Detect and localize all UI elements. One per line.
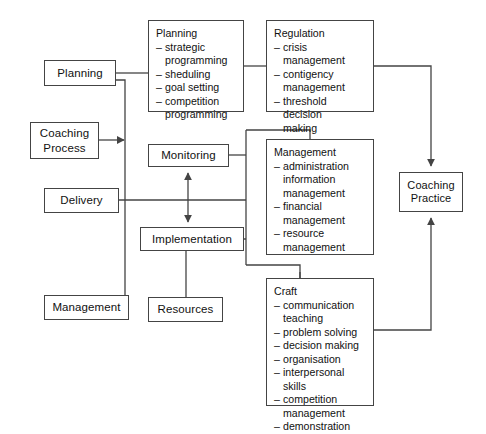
management-heading: Management	[274, 146, 368, 160]
planning-detail-heading: Planning	[156, 27, 238, 41]
list-item: crisis management	[274, 41, 368, 68]
node-coaching-process[interactable]: Coaching Process	[30, 122, 99, 159]
list-item: sheduling	[156, 68, 238, 82]
node-coaching-practice[interactable]: Coaching Practice	[399, 172, 463, 212]
node-monitoring[interactable]: Monitoring	[148, 144, 229, 167]
node-resources[interactable]: Resources	[148, 297, 223, 322]
management-list: administration information managementfin…	[274, 160, 368, 255]
list-item: competition management	[274, 393, 368, 420]
node-craft[interactable]: Craft communication teachingproblem solv…	[266, 278, 374, 406]
list-item: administration information management	[274, 160, 368, 201]
list-item: decision making	[274, 339, 368, 353]
list-item: contigency management	[274, 68, 368, 95]
list-item: organisation	[274, 353, 368, 367]
regulation-list: crisis managementcontigency managementth…	[274, 41, 368, 136]
node-planning-detail[interactable]: Planning strategic programmingshedulingg…	[148, 20, 244, 112]
node-management-left[interactable]: Management	[44, 295, 129, 320]
wire-craft-to-coaching-practice	[374, 218, 431, 330]
node-regulation[interactable]: Regulation crisis managementcontigency m…	[266, 20, 374, 112]
list-item: strategic programming	[156, 41, 238, 68]
list-item: financial management	[274, 200, 368, 227]
list-item: resource management	[274, 227, 368, 254]
list-item: threshold decision making	[274, 95, 368, 136]
list-item: demonstration	[274, 420, 368, 434]
node-management-detail[interactable]: Management administration information ma…	[266, 139, 374, 255]
list-item: interpersonal skills	[274, 366, 368, 393]
list-item: problem solving	[274, 326, 368, 340]
planning-detail-list: strategic programmingshedulinggoal setti…	[156, 41, 238, 122]
node-implementation[interactable]: Implementation	[140, 227, 244, 251]
regulation-heading: Regulation	[274, 27, 368, 41]
craft-list: communication teachingproblem solvingdec…	[274, 299, 368, 434]
wire-bracket-bottom	[246, 265, 300, 278]
node-delivery[interactable]: Delivery	[44, 188, 119, 213]
node-planning[interactable]: Planning	[44, 60, 116, 86]
list-item: competition programming	[156, 95, 238, 122]
wire-regulation-to-coaching-practice	[374, 66, 431, 166]
list-item: communication teaching	[274, 299, 368, 326]
list-item: goal setting	[156, 81, 238, 95]
craft-heading: Craft	[274, 285, 368, 299]
